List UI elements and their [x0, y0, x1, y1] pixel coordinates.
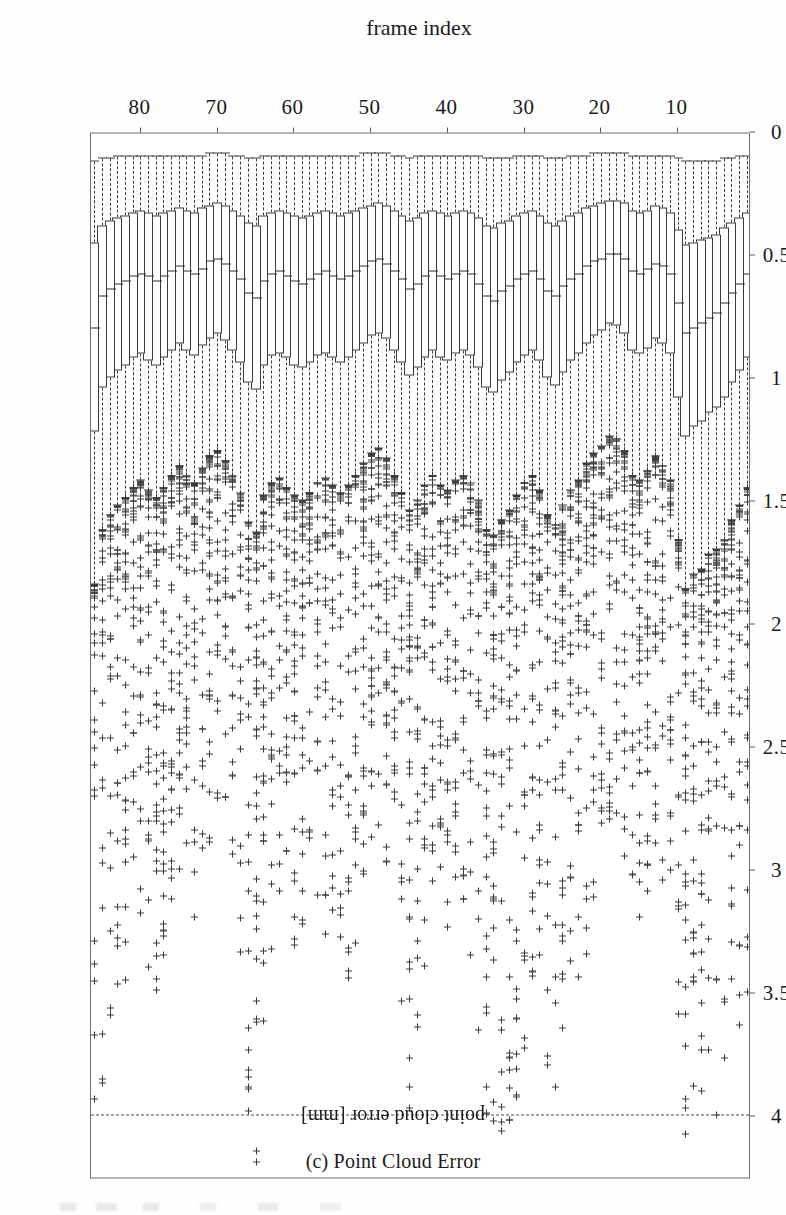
outlier-marker	[253, 621, 260, 628]
outlier-marker	[567, 576, 574, 583]
outlier-marker	[575, 973, 582, 980]
outlier-marker	[322, 930, 329, 937]
outlier-marker	[529, 773, 536, 780]
outlier-marker	[322, 640, 329, 647]
outlier-marker	[383, 502, 390, 509]
whisker-lower	[140, 156, 141, 210]
outlier-marker	[299, 604, 306, 611]
outlier-marker	[744, 695, 750, 702]
outlier-marker	[398, 514, 405, 521]
outlier-marker	[598, 740, 605, 747]
outlier-marker	[176, 650, 183, 657]
outlier-marker	[598, 819, 605, 826]
outlier-marker	[467, 494, 474, 501]
outlier-marker	[559, 970, 566, 977]
outlier-marker	[452, 675, 459, 682]
outlier-marker	[690, 1082, 697, 1089]
outlier-marker	[567, 700, 574, 707]
outlier-marker	[306, 579, 313, 586]
outlier-marker	[237, 948, 244, 955]
outlier-marker	[391, 795, 398, 802]
outlier-marker	[629, 472, 636, 479]
whisker-upper	[140, 353, 141, 481]
outlier-marker	[513, 937, 520, 944]
whisker-lower	[125, 156, 126, 215]
outlier-marker	[299, 916, 306, 923]
outlier-marker	[322, 713, 329, 720]
outlier-marker	[429, 545, 436, 552]
outlier-marker	[644, 539, 651, 546]
outlier-marker	[506, 1084, 513, 1091]
outlier-marker	[337, 782, 344, 789]
outlier-marker	[345, 974, 352, 981]
outlier-marker	[713, 743, 720, 750]
outlier-marker	[536, 701, 543, 708]
outlier-marker	[521, 503, 528, 510]
outlier-marker	[114, 779, 121, 786]
outlier-marker	[598, 490, 605, 497]
whisker-upper	[747, 357, 748, 487]
outlier-marker	[567, 492, 574, 499]
outlier-marker	[552, 833, 559, 840]
outlier-marker	[575, 566, 582, 573]
outlier-marker	[145, 896, 152, 903]
outlier-marker	[444, 627, 451, 634]
outlier-marker	[153, 548, 160, 555]
outlier-marker	[137, 617, 144, 624]
outlier-marker	[276, 476, 283, 483]
outlier-marker	[444, 534, 451, 541]
outlier-marker	[122, 840, 129, 847]
outlier-marker	[606, 454, 613, 461]
outlier-marker	[214, 449, 221, 456]
outlier-marker	[544, 538, 551, 545]
rotated-chart-stage: 00.511.522.533.54 1020304050607080 frame…	[0, 0, 786, 1215]
outlier-marker	[636, 640, 643, 647]
outlier-marker	[682, 796, 689, 803]
whisker-lower	[240, 156, 241, 215]
outlier-marker	[606, 815, 613, 822]
outlier-marker	[406, 995, 413, 1002]
outlier-marker	[206, 738, 213, 745]
outlier-marker	[659, 596, 666, 603]
outlier-marker	[406, 819, 413, 826]
outlier-marker	[299, 580, 306, 587]
outlier-marker	[153, 975, 160, 982]
outlier-marker	[682, 983, 689, 990]
outlier-marker	[467, 590, 474, 597]
outlier-marker	[437, 639, 444, 646]
outlier-marker	[690, 949, 697, 956]
outlier-marker	[636, 756, 643, 763]
outlier-marker	[736, 710, 743, 717]
outlier-marker	[276, 887, 283, 894]
outlier-marker	[191, 776, 198, 783]
outlier-marker	[352, 861, 359, 868]
outlier-marker	[122, 938, 129, 945]
outlier-marker	[222, 793, 229, 800]
outlier-marker	[613, 459, 620, 466]
outlier-marker	[621, 852, 628, 859]
outlier-marker	[229, 472, 236, 479]
outlier-marker	[559, 522, 566, 529]
outlier-marker	[398, 612, 405, 619]
outlier-marker	[414, 1023, 421, 1030]
outlier-marker	[391, 788, 398, 795]
outlier-marker	[444, 780, 451, 787]
outlier-marker	[191, 838, 198, 845]
outlier-marker	[253, 725, 260, 732]
whisker-upper	[371, 335, 372, 453]
outlier-marker	[276, 602, 283, 609]
outlier-marker	[713, 709, 720, 716]
outlier-marker	[322, 762, 329, 769]
outlier-marker	[268, 487, 275, 494]
outlier-marker	[483, 588, 490, 595]
outlier-marker	[345, 499, 352, 506]
outlier-marker	[268, 775, 275, 782]
whisker-upper	[209, 338, 210, 456]
outlier-marker	[291, 549, 298, 556]
outlier-marker	[283, 778, 290, 785]
outlier-marker	[475, 676, 482, 683]
outlier-marker	[583, 804, 590, 811]
outlier-marker	[705, 588, 712, 595]
outlier-marker	[283, 714, 290, 721]
outlier-marker	[406, 770, 413, 777]
